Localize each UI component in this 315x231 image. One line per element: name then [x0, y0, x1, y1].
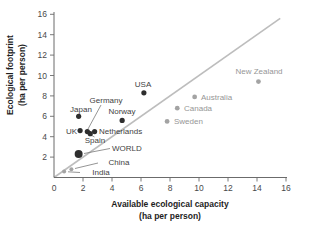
point-label-china: China — [109, 158, 130, 167]
point-usa — [141, 90, 146, 95]
point-label-netherlands: Netherlands — [99, 127, 142, 136]
point-china — [69, 167, 73, 171]
y-tick-label-12: 12 — [38, 50, 48, 60]
x-tick-label-14: 14 — [252, 183, 262, 193]
reference-line-y-equals-x — [54, 18, 280, 177]
point-label-usa: USA — [135, 80, 152, 89]
x-tick-label-4: 4 — [110, 183, 115, 193]
point-label-spain: Spain — [85, 136, 105, 145]
chart-canvas: 0246810121416246810121416IndiaChinaWORLD… — [0, 0, 315, 231]
point-label-canada: Canada — [184, 104, 213, 113]
x-axis-title: Available ecological capacity — [111, 199, 229, 209]
y-tick-label-16: 16 — [38, 9, 48, 19]
point-label-uk: UK — [66, 127, 78, 136]
point-japan — [76, 114, 81, 119]
point-australia — [192, 95, 197, 100]
point-india — [62, 169, 66, 173]
point-label-world: WORLD — [112, 144, 142, 153]
x-tick-label-12: 12 — [223, 183, 233, 193]
x-tick-label-10: 10 — [194, 183, 204, 193]
point-world — [75, 150, 83, 158]
x-tick-label-6: 6 — [139, 183, 144, 193]
point-label-india: India — [92, 168, 110, 177]
point-label-sweden: Sweden — [174, 117, 203, 126]
y-tick-label-6: 6 — [42, 111, 47, 121]
leader-line-india — [68, 172, 80, 173]
point-label-new-zealand: New Zealand — [235, 67, 282, 76]
point-new-zealand — [256, 79, 261, 84]
ecological-footprint-scatter-plot: 0246810121416246810121416IndiaChinaWORLD… — [0, 0, 315, 231]
y-tick-label-2: 2 — [42, 152, 47, 162]
leader-line-world — [84, 149, 110, 154]
y-tick-label-10: 10 — [38, 71, 48, 81]
x-tick-label-8: 8 — [168, 183, 173, 193]
x-tick-label-0: 0 — [52, 183, 57, 193]
y-tick-label-4: 4 — [42, 132, 47, 142]
point-label-australia: Australia — [201, 93, 233, 102]
x-tick-label-2: 2 — [81, 183, 86, 193]
point-label-norway: Norway — [108, 107, 135, 116]
point-netherlands — [92, 129, 97, 134]
x-axis-title-units: (ha per person) — [139, 211, 201, 221]
point-norway — [120, 118, 125, 123]
y-tick-label-8: 8 — [42, 91, 47, 101]
point-sweden — [165, 119, 170, 124]
x-tick-label-16: 16 — [281, 183, 291, 193]
point-canada — [175, 106, 180, 111]
y-axis-title-units: (ha per person) — [17, 44, 27, 106]
point-label-japan: Japan — [70, 105, 92, 114]
y-axis-title: Ecological footprint — [5, 35, 15, 115]
y-tick-label-14: 14 — [38, 30, 48, 40]
point-uk — [78, 128, 83, 133]
point-label-germany: Germany — [90, 96, 123, 105]
